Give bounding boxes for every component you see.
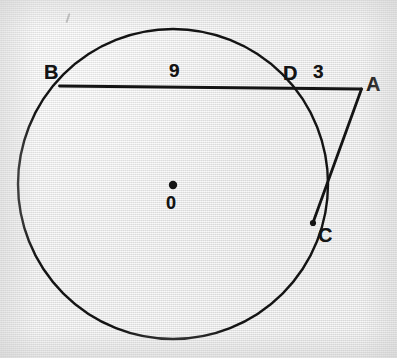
label-segment-da: 3 — [313, 62, 324, 81]
label-point-c: C — [318, 225, 332, 245]
segment-line-ac — [313, 89, 362, 224]
label-point-a: A — [366, 74, 380, 94]
label-center-o: 0 — [166, 194, 176, 212]
diagram-canvas: B 9 D 3 A 0 C — [0, 0, 397, 358]
secant-line-ba — [60, 86, 362, 89]
label-point-d: D — [283, 63, 297, 83]
center-dot — [169, 181, 177, 189]
label-point-b: B — [44, 62, 58, 82]
label-segment-bd: 9 — [169, 61, 180, 80]
point-c-dot — [310, 220, 316, 226]
geometry-figure — [0, 0, 397, 358]
